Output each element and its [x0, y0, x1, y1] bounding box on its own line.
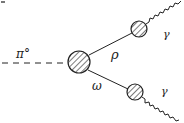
central-vertex-blob: [68, 51, 90, 73]
corner-mark: [1, 1, 5, 3]
rho-vertex-blob: [131, 21, 147, 37]
pion-label: π°: [16, 48, 30, 60]
photon-wavy-line-lower: [142, 97, 179, 121]
gamma-label-upper: γ: [163, 29, 170, 40]
diagram-graphics: [0, 0, 184, 123]
omega-label: ω: [92, 80, 102, 92]
feynman-diagram: π° ρ ω γ γ: [0, 0, 184, 123]
rho-label: ρ: [111, 48, 119, 61]
omega-vertex-blob: [127, 84, 143, 100]
gamma-label-lower: γ: [161, 86, 168, 97]
photon-wavy-line-upper: [146, 1, 181, 24]
